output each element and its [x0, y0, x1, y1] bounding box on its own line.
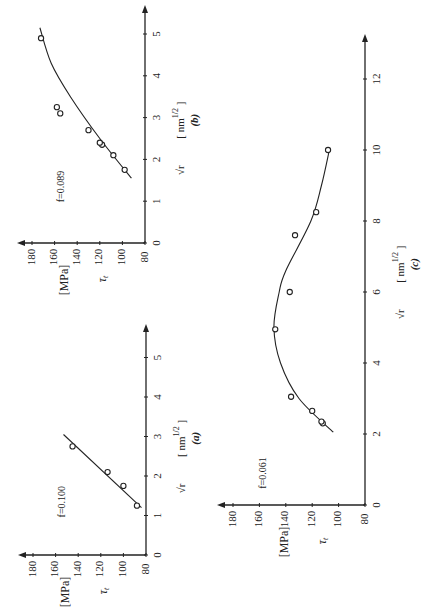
data-point-marker	[122, 167, 127, 172]
y-tick-label: 100	[331, 510, 343, 527]
data-point-marker	[287, 289, 292, 294]
y-axis-arrow-icon	[217, 502, 225, 508]
data-point-marker	[310, 408, 315, 413]
x-tick-label: 0	[370, 502, 382, 508]
y-axis-unit: [MPa]	[277, 527, 291, 558]
y-tick-label: 180	[26, 560, 38, 577]
panel-label: (c)	[408, 258, 421, 270]
data-point-marker	[97, 140, 102, 145]
data-point-marker	[292, 233, 297, 238]
panel-label: (b)	[188, 114, 201, 127]
figure-page: 01234580100120140160180τt[MPa]√r[ nm1/2 …	[0, 0, 423, 609]
y-tick-label: 160	[252, 510, 264, 527]
data-point-marker	[121, 483, 126, 488]
x-tick-label: 6	[370, 289, 382, 295]
y-tick-label: 160	[47, 248, 59, 265]
x-tick-label: 12	[370, 74, 382, 85]
y-tick-label: 80	[139, 563, 151, 575]
data-point-marker	[105, 469, 110, 474]
y-tick-label: 100	[116, 560, 128, 577]
x-axis-title: √r	[175, 483, 187, 493]
data-point-marker	[86, 128, 91, 133]
x-tick-label: 1	[150, 198, 162, 204]
x-axis-unit: [ nm1/2 ]	[391, 246, 406, 283]
data-point-marker	[273, 327, 278, 332]
fit-curve	[40, 28, 132, 178]
data-point-marker	[58, 111, 63, 116]
x-tick-label: 2	[150, 157, 162, 163]
data-point-marker	[319, 419, 324, 424]
y-axis-title: τt	[315, 537, 330, 544]
chart-panel-a: 01234580100120140160180τt[MPa]√r[ nm1/2 …	[18, 324, 202, 607]
y-axis-unit: [MPa]	[57, 265, 71, 296]
chart-panel-c: 02468101280100120140160180τt[MPa]√r[ nm1…	[217, 34, 421, 557]
x-tick-label: 4	[370, 360, 382, 366]
data-point-marker	[38, 36, 43, 41]
y-tick-label: 180	[226, 510, 238, 527]
x-axis-unit: [ nm1/2 ]	[171, 102, 186, 139]
x-axis-arrow-icon	[362, 34, 368, 42]
x-tick-label: 0	[151, 552, 163, 558]
y-axis-title: τt	[96, 587, 111, 594]
figure-canvas: 01234580100120140160180τt[MPa]√r[ nm1/2 …	[0, 0, 423, 609]
x-tick-label: 2	[370, 431, 382, 437]
y-tick-label: 120	[305, 510, 317, 527]
y-tick-label: 160	[48, 560, 60, 577]
x-tick-label: 0	[150, 240, 162, 246]
data-point-marker	[314, 210, 319, 215]
annotation-f-value: f=0.089	[55, 171, 66, 202]
x-axis-arrow-icon	[143, 324, 149, 332]
y-tick-label: 100	[115, 248, 127, 265]
x-axis-unit: [ nm1/2 ]	[172, 420, 187, 457]
x-tick-label: 5	[150, 31, 162, 37]
data-point-marker	[70, 444, 75, 449]
fit-curve	[274, 150, 333, 432]
data-point-marker	[134, 503, 139, 508]
x-tick-label: 3	[151, 433, 163, 439]
x-tick-label: 2	[151, 473, 163, 479]
y-axis-title: τt	[95, 275, 110, 282]
y-tick-label: 120	[92, 248, 104, 265]
x-tick-label: 1	[151, 513, 163, 519]
panel-label: (a)	[189, 432, 202, 445]
y-tick-label: 180	[25, 248, 37, 265]
y-axis-unit: [MPa]	[58, 577, 72, 608]
data-point-marker	[111, 153, 116, 158]
x-tick-label: 5	[151, 354, 163, 360]
data-point-marker	[54, 105, 59, 110]
x-tick-label: 8	[370, 218, 382, 224]
data-point-marker	[325, 147, 330, 152]
y-tick-label: 80	[358, 513, 370, 525]
x-tick-label: 4	[150, 73, 162, 79]
y-axis-arrow-icon	[18, 552, 26, 558]
x-tick-label: 10	[370, 144, 382, 156]
x-axis-title: √r	[174, 165, 186, 175]
x-axis-arrow-icon	[142, 5, 148, 13]
chart-panel-b: 01234580100120140160180τt[MPa]√r[ nm1/2 …	[17, 5, 201, 295]
x-axis-title: √r	[394, 309, 406, 319]
data-point-marker	[288, 394, 293, 399]
y-axis-arrow-icon	[17, 240, 25, 246]
y-tick-label: 80	[138, 251, 150, 263]
annotation-f-value: f=0.100	[56, 486, 67, 517]
y-tick-label: 140	[71, 560, 83, 577]
x-tick-label: 4	[151, 394, 163, 400]
y-tick-label: 120	[93, 560, 105, 577]
y-tick-label: 140	[70, 248, 82, 265]
annotation-f-value: f=0.061	[257, 457, 268, 488]
x-tick-label: 3	[150, 114, 162, 120]
y-tick-label: 140	[278, 510, 290, 527]
